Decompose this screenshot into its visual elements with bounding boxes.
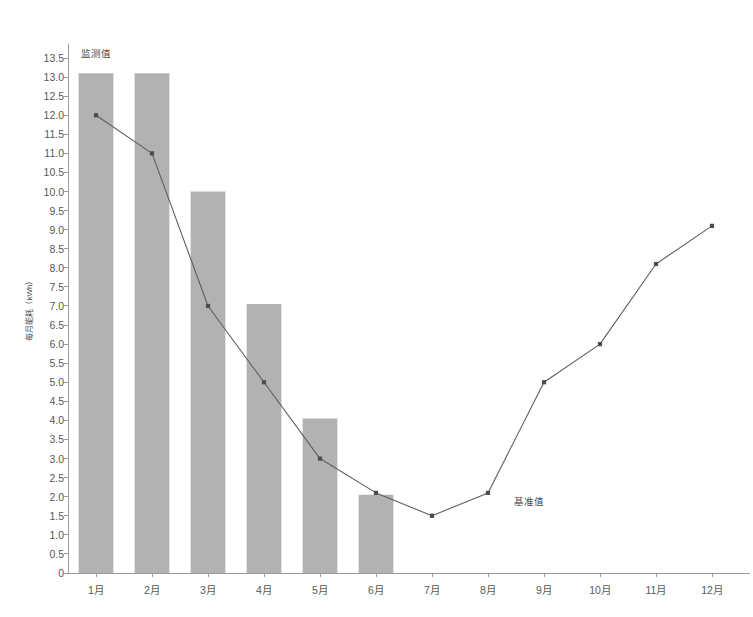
x-axis-tick-label: 2月 <box>144 582 160 597</box>
x-axis-tick-label: 3月 <box>200 582 216 597</box>
x-axis-tick-label: 1月 <box>88 582 104 597</box>
series-annotation-label: 监测值 <box>81 46 111 60</box>
x-axis-tick-label: 9月 <box>536 582 552 597</box>
x-axis-tick-label: 7月 <box>424 582 440 597</box>
x-axis-tick-label: 10月 <box>589 582 611 597</box>
chart-canvas: 每月能耗（kWh） 00.51.01.52.02.53.03.54.04.55.… <box>0 0 753 617</box>
x-axis-tick-label: 4月 <box>256 582 272 597</box>
x-axis-tick-label: 11月 <box>646 582 667 597</box>
x-axis-tick-label: 12月 <box>701 582 723 597</box>
x-axis-tick-label: 6月 <box>368 582 384 597</box>
x-axis-tick-label: 8月 <box>480 582 496 597</box>
x-axis-tick-labels: 1月2月3月4月5月6月7月8月9月10月11月12月 <box>0 0 753 617</box>
series-annotation-label: 基准值 <box>514 494 544 508</box>
x-axis-tick-label: 5月 <box>312 582 328 597</box>
